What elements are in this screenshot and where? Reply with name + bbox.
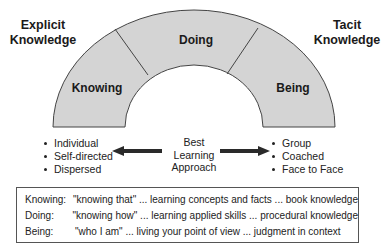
definition-text: "knowing how" ... learning applied skill… bbox=[72, 208, 358, 224]
arch-band bbox=[53, 10, 335, 127]
label-line: Best bbox=[164, 136, 224, 149]
definitions-box: Knowing: "knowing that" ... learning con… bbox=[16, 187, 359, 243]
list-item: Dispersed bbox=[42, 163, 113, 176]
best-learning-approach-label: Best Learning Approach bbox=[164, 136, 224, 174]
list-item: Individual bbox=[42, 137, 113, 150]
definition-term: Knowing: bbox=[25, 192, 73, 208]
arrow-right-icon bbox=[218, 145, 270, 157]
label-line: Learning bbox=[164, 149, 224, 162]
definition-term: Doing: bbox=[25, 208, 72, 224]
definition-row-knowing: Knowing: "knowing that" ... learning con… bbox=[25, 192, 358, 208]
definition-text: "knowing that" ... learning concepts and… bbox=[73, 192, 358, 208]
segment-doing: Doing bbox=[179, 33, 213, 47]
segment-being: Being bbox=[276, 81, 309, 95]
definition-row-doing: Doing: "knowing how" ... learning applie… bbox=[25, 208, 358, 224]
list-item: Face to Face bbox=[270, 163, 343, 176]
list-item: Self-directed bbox=[42, 150, 113, 163]
label-line: Approach bbox=[164, 161, 224, 174]
definition-text: "who I am" ... living your point of view… bbox=[75, 224, 341, 240]
explicit-approach-list: Individual Self-directed Dispersed bbox=[42, 137, 113, 176]
list-item: Group bbox=[270, 137, 343, 150]
arrow-left-icon bbox=[112, 145, 164, 157]
list-item: Coached bbox=[270, 150, 343, 163]
tacit-approach-list: Group Coached Face to Face bbox=[270, 137, 343, 176]
learning-arch bbox=[0, 0, 388, 135]
definition-row-being: Being: "who I am" ... living your point … bbox=[25, 224, 358, 240]
segment-knowing: Knowing bbox=[72, 81, 123, 95]
definition-term: Being: bbox=[25, 224, 75, 240]
